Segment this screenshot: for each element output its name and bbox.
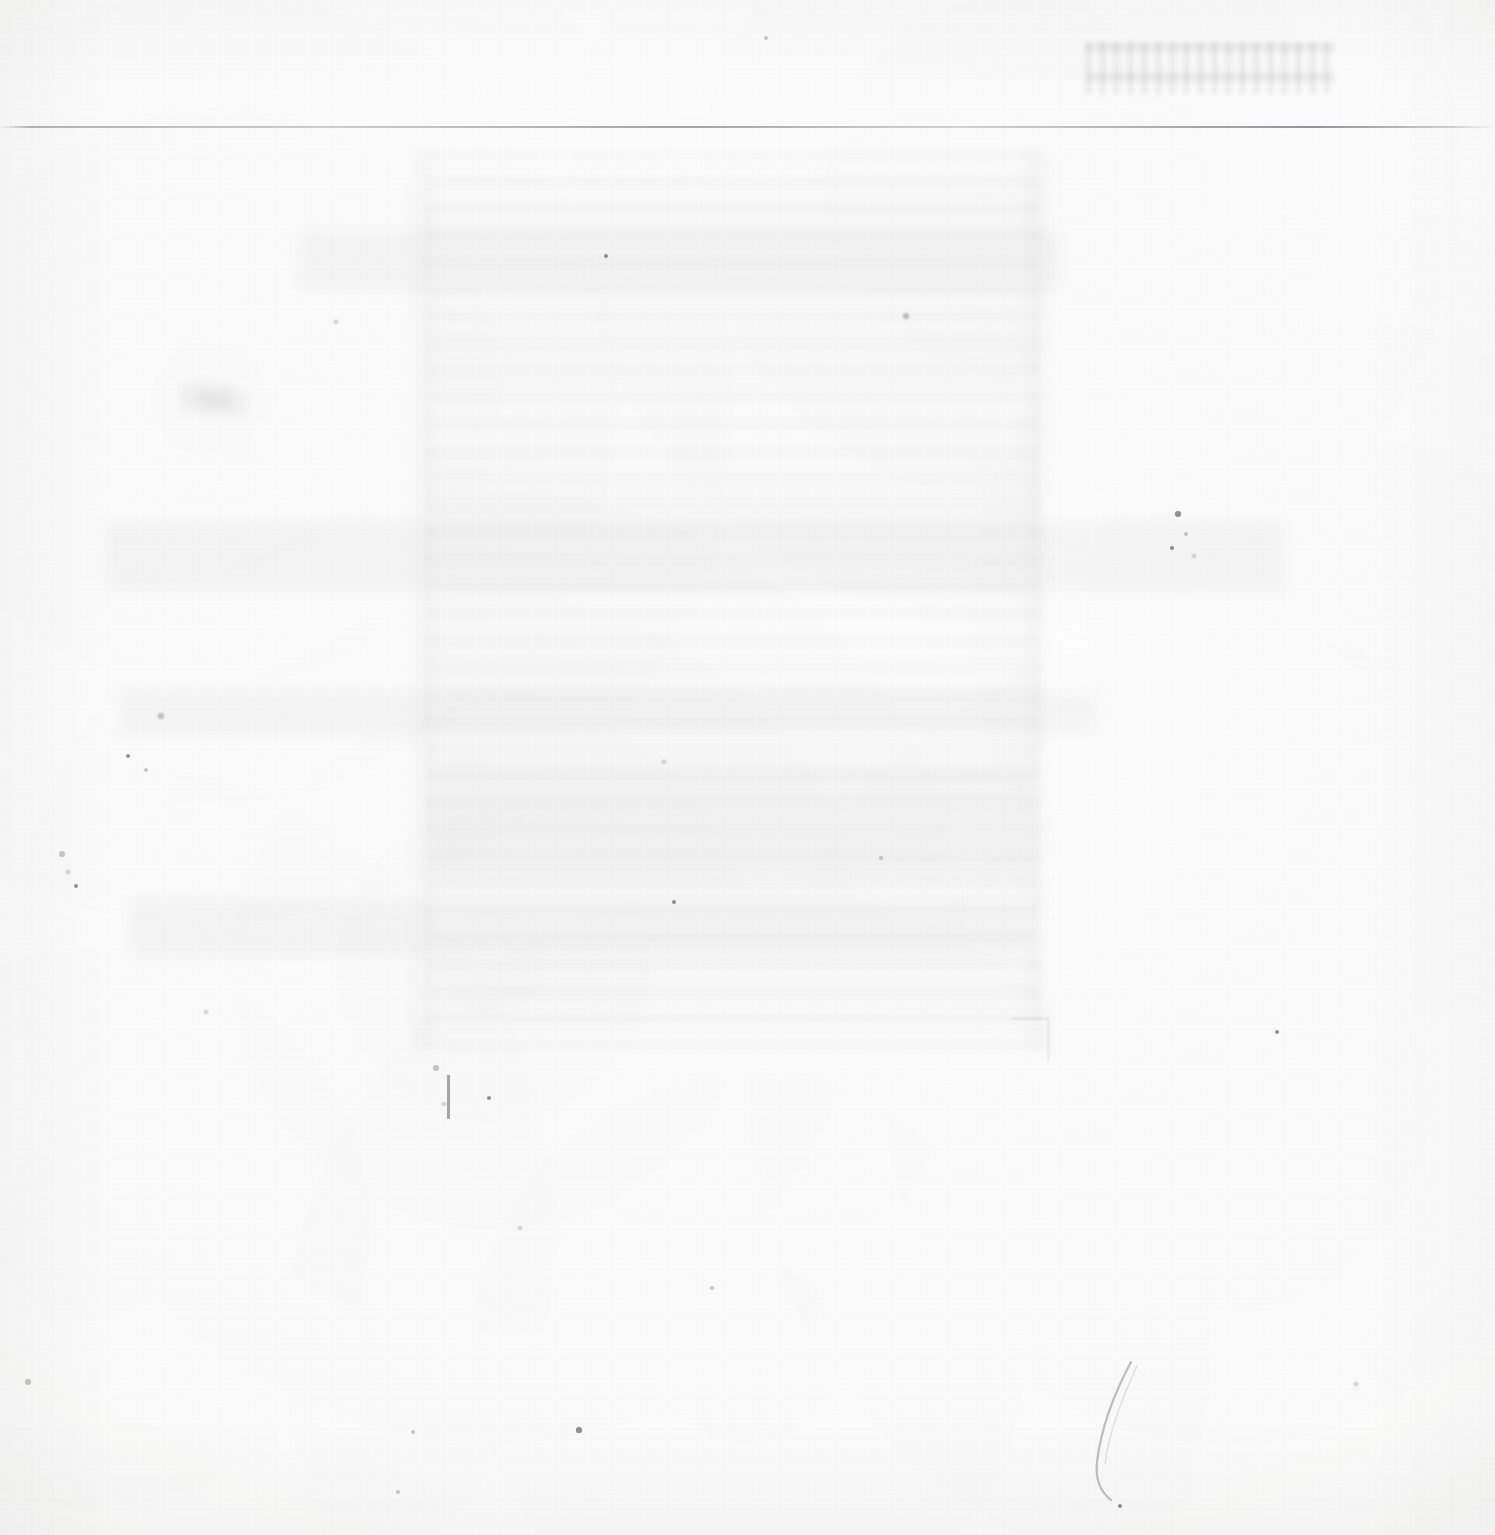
dust-speck — [518, 1226, 522, 1230]
dust-speck — [25, 1379, 31, 1385]
horizontal-rule — [0, 126, 1495, 128]
page-edge-shadow-left — [0, 0, 110, 1535]
showthrough-text-lines — [425, 150, 1040, 1050]
dust-speck — [158, 713, 163, 718]
dust-speck — [74, 884, 78, 888]
dust-speck — [903, 313, 908, 318]
scanned-page — [0, 0, 1495, 1535]
pen-scratch-mark — [447, 1075, 450, 1119]
dust-speck — [1192, 554, 1196, 558]
showthrough-text-block — [425, 150, 1040, 1050]
dust-speck — [204, 1010, 208, 1014]
showthrough-running-head — [1085, 42, 1335, 94]
dust-speck — [144, 768, 148, 772]
dust-speck — [662, 760, 666, 764]
dust-speck — [604, 254, 608, 258]
dust-speck — [396, 1490, 400, 1494]
dust-speck — [411, 1430, 415, 1434]
page-edge-shadow-right — [1365, 0, 1495, 1535]
page-edge-shadow-bottom — [0, 1415, 1495, 1535]
dust-speck — [487, 1096, 491, 1100]
dust-speck — [1170, 546, 1174, 550]
dust-speck — [576, 1427, 581, 1432]
ink-smudge — [180, 378, 250, 420]
dust-speck — [433, 1065, 439, 1071]
dust-speck — [1175, 511, 1181, 517]
crease-arc-mark — [1085, 1358, 1155, 1508]
corner-register-mark — [1012, 1018, 1049, 1061]
